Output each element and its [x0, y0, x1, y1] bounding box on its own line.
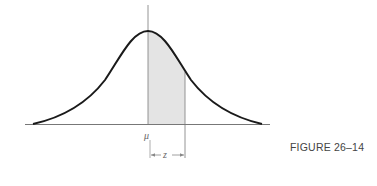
left-arrow-icon	[151, 153, 155, 156]
shaded-area	[148, 31, 185, 124]
normal-curve-diagram	[0, 0, 377, 186]
mean-label: μ	[144, 130, 149, 141]
bell-curve	[33, 31, 262, 124]
normal-curve-figure: μ z FIGURE 26–14	[0, 0, 377, 186]
right-arrow-icon	[180, 153, 184, 156]
z-label: z	[163, 149, 167, 160]
figure-caption: FIGURE 26–14	[290, 141, 364, 153]
